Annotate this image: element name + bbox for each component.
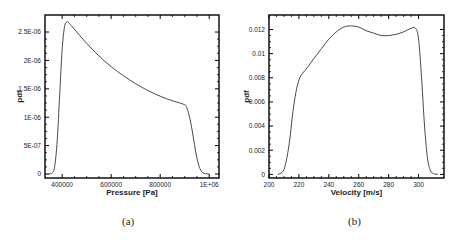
y-tick-label: 0 xyxy=(37,170,41,177)
caption-a: (a) xyxy=(122,215,134,227)
y-tick-label: 5E-07 xyxy=(24,142,42,149)
caption-b: (b) xyxy=(348,215,361,227)
y-axis-label: pdf xyxy=(242,90,251,103)
y-tick-label: 0.006 xyxy=(249,98,266,105)
y-axis-label: pdf xyxy=(15,90,24,103)
pdf-curve xyxy=(278,26,438,175)
x-axis-label: Pressure [Pa] xyxy=(106,188,158,197)
pressure-pdf-chart: 4000006000008000001E+0605E-071E-061.5E-0… xyxy=(0,0,230,200)
chart-panel-b: 20022024026028030000.0020.0040.0060.0080… xyxy=(230,0,461,244)
velocity-pdf-chart: 20022024026028030000.0020.0040.0060.0080… xyxy=(230,0,461,200)
y-tick-label: 0.012 xyxy=(249,26,266,33)
chart-panel-a: 4000006000008000001E+0605E-071E-061.5E-0… xyxy=(0,0,230,244)
y-tick-label: 0.008 xyxy=(249,74,266,81)
y-tick-label: 0.01 xyxy=(252,50,265,57)
x-tick-label: 200 xyxy=(264,181,275,188)
pdf-curve xyxy=(47,22,209,174)
y-tick-label: 0 xyxy=(261,171,265,178)
x-tick-label: 1E+06 xyxy=(200,181,219,188)
x-tick-label: 220 xyxy=(293,181,304,188)
x-tick-label: 400000 xyxy=(51,181,73,188)
y-tick-label: 1E-06 xyxy=(24,114,42,121)
x-tick-label: 600000 xyxy=(100,181,122,188)
x-tick-label: 280 xyxy=(383,181,394,188)
x-tick-label: 240 xyxy=(323,181,334,188)
y-tick-label: 0.002 xyxy=(249,147,266,154)
x-tick-label: 260 xyxy=(353,181,364,188)
y-tick-label: 0.004 xyxy=(249,122,266,129)
y-tick-label: 2.5E-06 xyxy=(18,28,41,35)
x-tick-label: 800000 xyxy=(149,181,171,188)
x-tick-label: 300 xyxy=(413,181,424,188)
x-axis-label: Velocity [m/s] xyxy=(331,188,383,197)
plot-frame xyxy=(45,15,219,178)
y-tick-label: 2E-06 xyxy=(24,57,42,64)
